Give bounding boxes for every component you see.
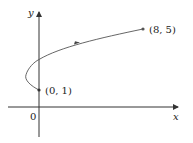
point-start-label: (0, 1) (45, 85, 72, 96)
point-start (37, 88, 40, 91)
x-axis-label: x (173, 111, 179, 122)
point-end (141, 27, 144, 30)
point-end-label: (8, 5) (149, 24, 176, 35)
parametric-curve (26, 29, 143, 90)
y-axis-label: y (27, 7, 34, 18)
diagram-canvas: y x 0 (0, 1) (8, 5) (0, 0, 193, 143)
origin-label: 0 (30, 111, 36, 122)
